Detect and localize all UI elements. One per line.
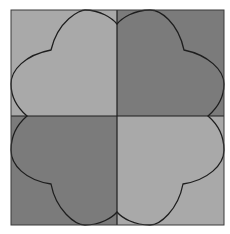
quadrant-top-left xyxy=(11,10,117,116)
quadrant-bottom-right xyxy=(117,116,224,225)
quadrant-bottom-left xyxy=(11,116,117,225)
quatrefoil-diagram xyxy=(0,0,230,234)
quadrant-top-right xyxy=(117,10,224,116)
